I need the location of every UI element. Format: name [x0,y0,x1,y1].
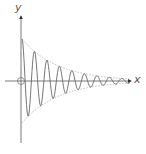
damped-oscillation-diagram [0,0,146,154]
x-axis-label: x [134,74,141,85]
upper-envelope [22,39,130,79]
y-axis-label: y [15,2,22,13]
